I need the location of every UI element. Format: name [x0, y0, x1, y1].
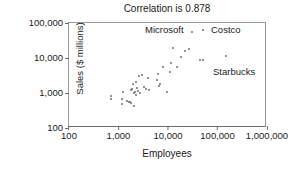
data-point [145, 88, 147, 90]
y-tick-label: 100,000 [29, 18, 63, 28]
data-point [156, 79, 158, 81]
data-point [225, 55, 227, 57]
data-point [169, 71, 171, 73]
data-point [184, 50, 186, 52]
x-tick: 1,000,000 [246, 126, 288, 141]
data-point [110, 98, 112, 100]
data-point [135, 94, 137, 96]
plot-area: Microsoft Costco Starbucks 1001,00010,00… [68, 22, 266, 127]
x-tick: 100 [61, 126, 77, 141]
data-point [158, 85, 160, 87]
x-tick-label: 1,000 [107, 131, 131, 141]
x-tick-label: 10,000 [153, 131, 182, 141]
annotation-microsoft: Microsoft [145, 24, 184, 35]
data-point [132, 83, 134, 85]
data-point [176, 66, 178, 68]
y-tick-mark [65, 58, 69, 59]
annotation-starbucks: Starbucks [213, 66, 255, 77]
x-tick-label: 1,000,000 [246, 131, 288, 141]
data-point [134, 91, 136, 93]
data-point [136, 87, 138, 89]
data-point [148, 89, 150, 91]
data-point [162, 66, 164, 68]
y-tick-mark [65, 23, 69, 24]
y-tick-mark [65, 93, 69, 94]
data-point [135, 81, 137, 83]
data-point [122, 91, 124, 93]
chart-title: Correlation is 0.878 [68, 3, 266, 14]
x-tick: 10,000 [153, 126, 182, 141]
data-point [170, 62, 172, 64]
annotation-costco-marker-icon [202, 29, 204, 31]
x-tick-label: 100 [61, 131, 77, 141]
x-axis-label: Employees [68, 148, 266, 159]
x-tick-label: 100,000 [200, 131, 234, 141]
x-tick: 100,000 [200, 126, 234, 141]
data-point [121, 103, 123, 105]
data-point [138, 75, 140, 77]
data-point [130, 102, 132, 104]
data-point [199, 59, 201, 61]
data-point [147, 77, 149, 79]
x-tick: 1,000 [107, 126, 131, 141]
y-tick-label: 10,000 [34, 53, 63, 63]
data-point [139, 92, 141, 94]
y-tick-label: 1,000 [39, 88, 63, 98]
annotation-costco: Costco [211, 24, 241, 35]
annotation-microsoft-marker-icon [191, 31, 193, 33]
data-point [133, 105, 135, 107]
scatter-chart: Correlation is 0.878 Microsoft Costco St… [0, 0, 296, 169]
data-point [121, 98, 123, 100]
data-point [131, 88, 133, 90]
data-point [180, 56, 182, 58]
data-point [166, 91, 168, 93]
data-point [202, 59, 204, 61]
data-point [157, 73, 159, 75]
data-point [172, 47, 174, 49]
data-point [188, 48, 190, 50]
data-point [141, 74, 143, 76]
y-axis-label: Sales ($ millions) [74, 5, 85, 113]
